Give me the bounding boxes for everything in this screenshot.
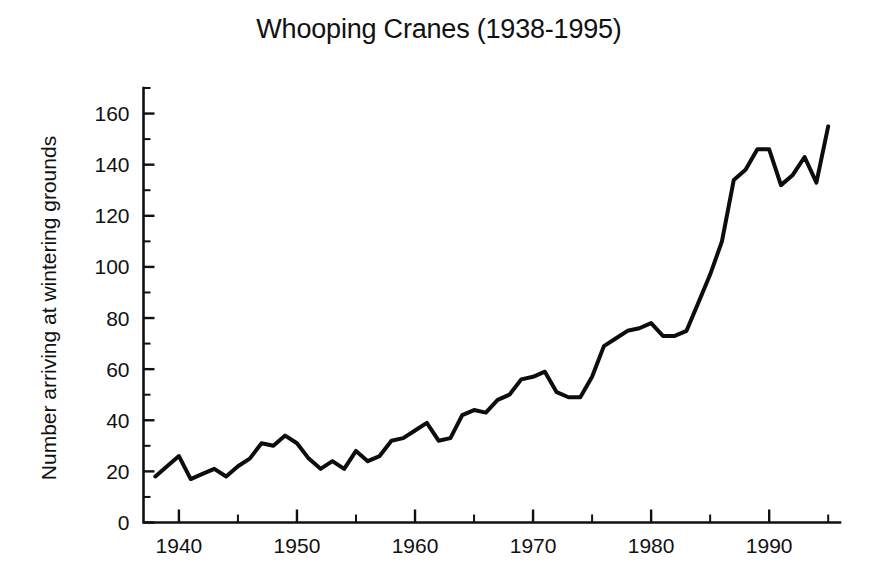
y-axis-ticks [144,88,155,523]
y-tick-label: 100 [94,255,129,278]
x-tick-label: 1990 [746,534,793,557]
y-tick-label: 80 [106,307,129,330]
plot-area: 020406080100120140160 194019501960197019… [0,0,878,584]
y-tick-label: 60 [106,358,129,381]
x-tick-label: 1960 [392,534,439,557]
x-tick-label: 1950 [274,534,321,557]
y-axis-tick-labels: 020406080100120140160 [94,102,129,534]
data-series [155,126,828,479]
y-tick-label: 140 [94,153,129,176]
axis-spines [144,88,841,523]
x-tick-label: 1980 [628,534,675,557]
x-axis-ticks [179,510,828,523]
y-tick-label: 160 [94,102,129,125]
series-line-whooping-crane-count [155,126,828,479]
y-tick-label: 20 [106,460,129,483]
y-tick-label: 0 [118,511,130,534]
chart-figure: Whooping Cranes (1938-1995) Number arriv… [0,0,878,584]
x-axis-tick-labels: 194019501960197019801990 [156,534,793,557]
y-tick-label: 120 [94,204,129,227]
y-tick-label: 40 [106,409,129,432]
x-tick-label: 1940 [156,534,203,557]
axis-spine-path [144,88,841,523]
x-tick-label: 1970 [510,534,557,557]
